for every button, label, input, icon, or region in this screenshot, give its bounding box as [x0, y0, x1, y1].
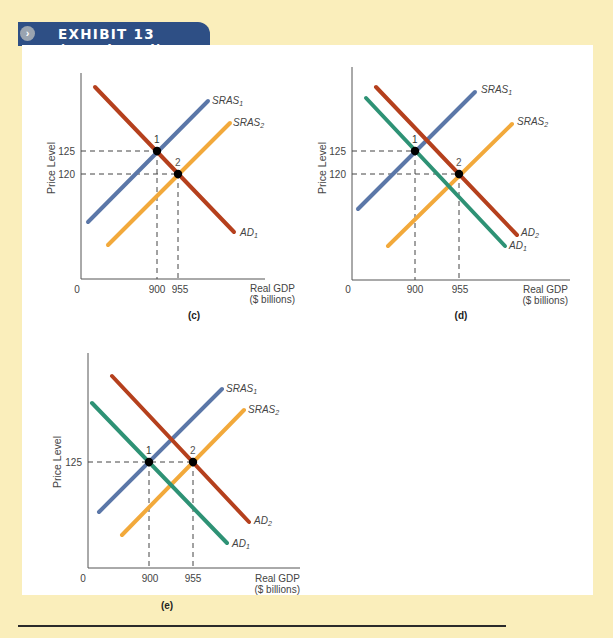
sras2-label: SRAS2: [248, 404, 279, 416]
point-2-label: 2: [175, 157, 181, 168]
chart-c: 1 2 SRAS1 SRAS2 AD1 125 120 900 955 0 Re…: [45, 73, 295, 321]
ad1-label: AD1: [239, 227, 258, 239]
x-tick-955: 955: [185, 573, 202, 584]
y-tick-125: 125: [58, 146, 75, 157]
x-tick-955: 955: [452, 284, 469, 295]
point-2-label: 2: [456, 157, 462, 168]
ad2-curve: [112, 376, 249, 522]
y-tick-125: 125: [329, 146, 346, 157]
y-axis-label: Price Level: [316, 142, 328, 194]
chart-d: 1 2 SRAS1 SRAS2 AD2 AD1 125 120 900 955 …: [316, 67, 570, 321]
ad2-label: AD2: [520, 227, 539, 239]
equilibrium-point-2: [455, 170, 463, 178]
point-2-label: 2: [190, 445, 196, 456]
x-axis-unit: ($ billions): [254, 584, 300, 595]
x-tick-955: 955: [172, 284, 189, 295]
charts-canvas: 1 2 SRAS1 SRAS2 AD1 125 120 900 955 0 Re…: [0, 0, 613, 638]
x-axis-unit: ($ billions): [522, 295, 568, 306]
equilibrium-point-1: [153, 147, 161, 155]
chart-e: 1 2 SRAS1 SRAS2 AD2 AD1 125 900 955 0 Re…: [51, 353, 300, 611]
chart-caption: (c): [188, 310, 200, 321]
chart-caption: (e): [161, 600, 173, 611]
equilibrium-point-1: [145, 458, 153, 466]
equilibrium-point-2: [174, 170, 182, 178]
ad2-label: AD2: [253, 515, 272, 527]
ad1-curve: [366, 98, 505, 246]
x-tick-900: 900: [149, 284, 166, 295]
sras2-label: SRAS2: [517, 116, 548, 128]
x-tick-900: 900: [407, 284, 424, 295]
y-tick-120: 120: [329, 169, 346, 180]
x-axis-unit: ($ billions): [249, 294, 295, 305]
sras1-label: SRAS1: [212, 95, 243, 107]
x-axis-label: Real GDP: [523, 284, 568, 295]
equilibrium-point-2: [189, 458, 197, 466]
y-axis-label: Price Level: [45, 142, 57, 194]
y-axis-label: Price Level: [51, 436, 63, 488]
y-tick-125: 125: [65, 457, 82, 468]
x-tick-900: 900: [142, 573, 159, 584]
ad1-label: AD1: [231, 538, 250, 550]
x-axis-label: Real GDP: [255, 573, 300, 584]
point-1-label: 1: [154, 134, 160, 145]
ad1-label: AD1: [508, 240, 527, 252]
origin-label: 0: [345, 284, 351, 295]
sras1-label: SRAS1: [226, 383, 257, 395]
sras2-label: SRAS2: [233, 117, 264, 129]
equilibrium-point-1: [411, 147, 419, 155]
ad1-curve: [95, 87, 234, 232]
ad2-curve: [376, 87, 517, 235]
y-tick-120: 120: [58, 169, 75, 180]
chart-caption: (d): [455, 310, 468, 321]
point-1-label: 1: [412, 134, 418, 145]
sras1-label: SRAS1: [481, 84, 512, 96]
x-axis-label: Real GDP: [250, 283, 295, 294]
point-1-label: 1: [146, 445, 152, 456]
origin-label: 0: [80, 573, 86, 584]
origin-label: 0: [74, 284, 80, 295]
